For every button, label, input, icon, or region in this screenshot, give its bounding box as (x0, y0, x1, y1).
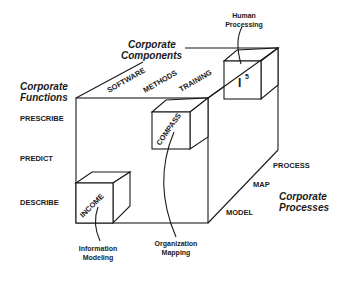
svg-text:Processing: Processing (225, 21, 263, 29)
svg-text:Corporate: Corporate (20, 81, 68, 92)
functions-label-describe: DESCRIBE (20, 198, 59, 207)
axis-title-functions: Corporate Functions (20, 81, 68, 103)
subcube-i5-superscript: 5 (245, 73, 249, 80)
callout-organization-mapping: Organization Mapping (155, 240, 198, 257)
svg-text:Corporate: Corporate (128, 39, 176, 50)
components-label-methods: METHODS (142, 68, 179, 95)
subcube-income: INCOME (76, 172, 130, 223)
svg-text:Modeling: Modeling (83, 254, 114, 262)
svg-text:Human: Human (232, 12, 256, 19)
svg-text:Functions: Functions (20, 92, 68, 103)
components-label-training: TRAINING (178, 68, 214, 94)
subcube-compass: COMPASS (152, 98, 208, 149)
processes-label-map: MAP (253, 180, 270, 189)
callout-human-processing: Human Processing (225, 12, 263, 29)
svg-text:Information: Information (79, 245, 118, 252)
processes-label-process: PROCESS (273, 161, 310, 170)
processes-label-model: MODEL (226, 208, 254, 217)
subcube-i5: I 5 (224, 48, 278, 99)
callout-information-modeling: Information Modeling (79, 245, 118, 262)
svg-text:Mapping: Mapping (162, 249, 191, 257)
subcube-i5-front-face (224, 61, 261, 99)
components-label-software: SOFTWARE (106, 66, 147, 95)
subcube-i5-label: I (238, 76, 241, 90)
svg-text:Components: Components (121, 50, 183, 61)
functions-label-predict: PREDICT (20, 154, 53, 163)
axis-title-processes: Corporate Processes (279, 191, 329, 213)
cube-framework-diagram: I 5 COMPASS INCOME Corporate Functions C… (0, 0, 345, 284)
svg-text:Organization: Organization (155, 240, 198, 248)
svg-text:Processes: Processes (279, 202, 329, 213)
svg-text:Corporate: Corporate (279, 191, 327, 202)
axis-title-components: Corporate Components (121, 39, 183, 61)
functions-label-prescribe: PRESCRIBE (20, 114, 64, 123)
